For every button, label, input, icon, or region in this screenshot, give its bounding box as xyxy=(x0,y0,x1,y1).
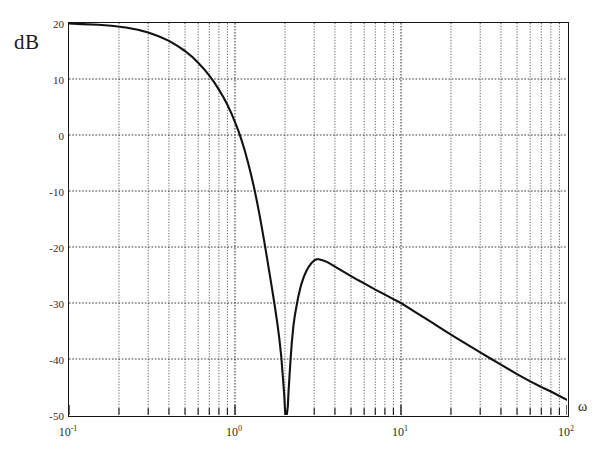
plot-canvas xyxy=(69,23,567,415)
x-tick-label: 102 xyxy=(558,424,574,440)
y-axis-tick-labels: 20100-10-20-30-40-50 xyxy=(18,22,64,417)
bode-magnitude-plot-figure: dB ω 20100-10-20-30-40-50 10-1100101102 xyxy=(0,0,611,460)
y-tick-label: -10 xyxy=(24,186,64,198)
x-axis-tick-labels: 10-1100101102 xyxy=(68,424,569,450)
magnitude-response-curve xyxy=(69,24,567,415)
y-tick-label: 10 xyxy=(24,74,64,86)
plot-area xyxy=(68,22,569,417)
y-tick-label: -50 xyxy=(24,410,64,422)
y-tick-label: 0 xyxy=(24,130,64,142)
x-axis-omega-label: ω xyxy=(578,399,587,415)
bottom-axis-ticks xyxy=(69,405,567,415)
x-tick-label: 10-1 xyxy=(59,424,78,440)
y-tick-label: -20 xyxy=(24,242,64,254)
y-tick-label: -40 xyxy=(24,354,64,366)
y-tick-label: -30 xyxy=(24,298,64,310)
minor-gridlines xyxy=(119,23,559,415)
x-tick-label: 101 xyxy=(392,424,408,440)
major-horizontal-gridlines xyxy=(69,79,567,359)
y-tick-label: 20 xyxy=(24,18,64,30)
x-tick-label: 100 xyxy=(226,424,242,440)
